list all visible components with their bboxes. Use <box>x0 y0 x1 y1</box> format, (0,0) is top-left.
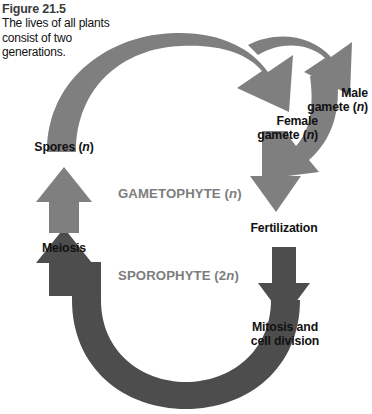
label-fertilization: Fertilization <box>222 221 346 235</box>
figure-caption: Figure 21.5 The lives of all plants cons… <box>2 2 122 60</box>
label-female-gamete: Femalegamete (n) <box>186 114 318 142</box>
label-mitosis-cell-division: Mitosis andcell division <box>226 320 344 348</box>
label-spores: Spores (n) <box>14 140 114 154</box>
phase-label-gametophyte: GAMETOPHYTE (n) <box>118 186 242 201</box>
label-meiosis: Meiosis <box>14 241 114 255</box>
figure-number: Figure 21.5 <box>2 2 122 16</box>
figure-caption-text: The lives of all plants consist of two g… <box>2 16 122 60</box>
spores-arrow <box>36 167 92 233</box>
phase-label-sporophyte: SPOROPHYTE (2n) <box>118 268 239 283</box>
figure-diagram: Figure 21.5 The lives of all plants cons… <box>0 0 372 414</box>
life-cycle-arrows <box>0 0 372 414</box>
label-male-gamete: Malegamete (n) <box>232 86 368 114</box>
